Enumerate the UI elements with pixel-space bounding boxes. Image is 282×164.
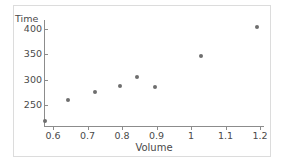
data-point (153, 85, 157, 89)
x-tick-label: 0.9 (142, 130, 172, 141)
y-tick-mark (44, 29, 48, 30)
y-tick-mark (44, 80, 48, 81)
x-tick-label: 0.7 (73, 130, 103, 141)
data-point (93, 90, 97, 94)
x-tick-label: 0.8 (107, 130, 137, 141)
chart-screenshot: Time Volume 250300350400 0.60.70.80.911.… (0, 0, 282, 164)
x-axis-line (44, 126, 264, 127)
data-point (118, 84, 122, 88)
data-point (255, 25, 259, 29)
x-tick-label: 1 (176, 130, 206, 141)
y-axis-line (44, 20, 45, 126)
x-tick-label: 1.1 (211, 130, 241, 141)
y-tick-label: 250 (14, 100, 42, 110)
scatter-plot: Time Volume 250300350400 0.60.70.80.911.… (0, 0, 282, 164)
y-tick-label: 300 (14, 75, 42, 85)
x-tick-label: 0.6 (38, 130, 68, 141)
y-tick-mark (44, 54, 48, 55)
x-axis-title: Volume (44, 142, 264, 153)
data-point (199, 54, 203, 58)
x-tick-label: 1.2 (245, 130, 275, 141)
y-tick-mark (44, 105, 48, 106)
data-point (135, 75, 139, 79)
y-tick-label: 350 (14, 49, 42, 59)
data-point (43, 119, 47, 123)
y-tick-label: 400 (14, 24, 42, 34)
data-point (66, 98, 70, 102)
